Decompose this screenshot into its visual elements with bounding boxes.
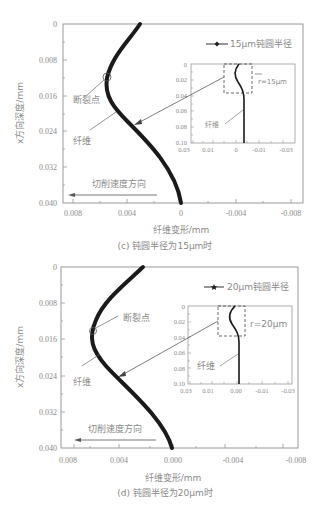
arrow-head-icon	[68, 193, 75, 197]
cutting-direction-label: 切削速度方向	[92, 178, 146, 189]
y-tick-label: 0.016	[39, 92, 57, 101]
inset-y-tick: 0.02	[174, 318, 185, 325]
fiber-curve	[106, 24, 181, 203]
inset-x-tick: 0.01	[202, 146, 213, 153]
inset-y-tick: 0.04	[176, 92, 188, 99]
inset-chart: 0 0.02 0.04 0.06 0.08 0.10 0.03 0.01 0 -…	[176, 61, 295, 153]
x-ticks	[74, 444, 283, 448]
inset-chart: 0 0.02 0.04 0.06 0.08 0.10 0.03 0.01 0.0…	[174, 303, 295, 394]
y-tick-label: 0.040	[39, 444, 57, 453]
inset-x-tick: -0.03	[279, 146, 293, 153]
arrow-head-icon	[74, 438, 81, 442]
x-tick-label: 0.004	[118, 209, 136, 218]
x-tick-label: 0.000	[164, 456, 182, 465]
x-tick-label: 0.004	[110, 456, 128, 465]
legend-label: 15μm钝圆半径	[230, 38, 292, 49]
x-tick-label: -0.008	[286, 456, 307, 465]
y-tick-label: 0.008	[39, 299, 57, 308]
chart-d-svg: 0 0.008 0.016 0.024 0.032 0.040 0.008 0.…	[0, 256, 329, 513]
legend-label: 20μm钝圆半径	[227, 281, 289, 292]
y-tick-label: 0.016	[39, 335, 57, 344]
chart-c-svg: 0 0.008 0.016 0.024 0.032 0.040 0.008 0.…	[0, 0, 329, 256]
y-tick-label: 0.024	[39, 127, 57, 136]
y-tick-label: 0	[53, 263, 57, 272]
radius-label: r=15μm	[258, 78, 287, 86]
x-tick-label: -0.004	[223, 456, 244, 465]
inset-y-tick: 0.08	[174, 365, 185, 372]
inset-x-tick: -0.03	[281, 387, 295, 394]
inset-x-tick: 0.03	[178, 146, 189, 153]
fiber-label: 纤维	[73, 376, 91, 387]
fiber-curve	[92, 267, 172, 448]
chart-panel-c: 0 0.008 0.016 0.024 0.032 0.040 0.008 0.…	[0, 0, 329, 256]
x-tick-label: 0.008	[59, 456, 77, 465]
break-point-leader	[86, 80, 104, 96]
y-tick-label: 0.032	[39, 163, 57, 172]
y-tick-label: 0.024	[39, 372, 57, 381]
x-tick-label: -0.008	[281, 209, 302, 218]
figure-caption: (d) 钝圆半径为20μm时	[117, 487, 213, 498]
inset-y-tick: 0.06	[174, 349, 186, 356]
break-point-leader	[96, 316, 118, 328]
chart-panel-d: 0 0.008 0.016 0.024 0.032 0.040 0.008 0.…	[0, 256, 329, 513]
inset-x-tick: 0	[234, 146, 237, 153]
inset-y-tick: 0.08	[176, 123, 187, 130]
inset-y-tick: 0.10	[174, 380, 185, 387]
y-tick-label: 0.008	[39, 56, 57, 65]
y-axis-title: x方向深度/mm	[14, 326, 25, 388]
x-tick-label: -0.004	[226, 209, 247, 218]
x-axis-title: 纤维变形/mm	[153, 224, 210, 235]
inset-y-tick: 0	[184, 61, 187, 68]
inset-y-tick: 0.02	[176, 76, 187, 83]
inset-fiber-label: 纤维	[197, 360, 215, 371]
legend: 15μm钝圆半径	[206, 38, 292, 49]
fiber-leader	[82, 354, 100, 366]
figure-caption: (c) 钝圆半径为15μm时	[118, 240, 213, 251]
y-axis-title: x方向深度/mm	[14, 82, 25, 144]
inset-x-tick: 0.01	[202, 387, 213, 394]
x-axis-title: 纤维变形/mm	[145, 472, 202, 483]
x-tick-label: 0.008	[64, 209, 82, 218]
break-point-label: 断裂点	[123, 312, 150, 323]
diamond-marker-icon	[215, 42, 220, 47]
y-ticks	[61, 285, 65, 430]
inset-y-tick: 0.10	[176, 139, 187, 146]
radius-label: r=20μm	[250, 319, 287, 329]
inset-x-tick: -0.01	[255, 387, 269, 394]
y-ticks	[63, 42, 67, 185]
arrow-head-icon	[118, 371, 126, 377]
break-point-label: 断裂点	[73, 94, 100, 105]
inset-x-tick: 0.00	[230, 387, 241, 394]
inset-fiber-label: 纤维	[205, 120, 219, 129]
fiber-leader	[90, 112, 116, 130]
inset-y-tick: 0	[182, 303, 185, 310]
fiber-label: 纤维	[73, 135, 91, 146]
x-tick-label: 0	[179, 209, 183, 218]
inset-x-tick: 0.03	[180, 387, 191, 394]
y-tick-label: 0	[53, 20, 57, 29]
y-tick-label: 0.040	[39, 199, 57, 208]
legend: 20μm钝圆半径	[204, 281, 289, 292]
inset-x-tick: -0.01	[252, 146, 266, 153]
y-tick-label: 0.032	[39, 408, 57, 417]
cutting-direction-label: 切削速度方向	[88, 423, 142, 434]
arrow-head-icon	[134, 119, 142, 125]
inset-y-tick: 0.06	[176, 107, 188, 114]
star-marker-icon	[211, 284, 218, 290]
